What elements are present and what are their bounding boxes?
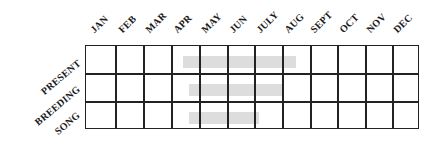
month-label: APR	[171, 12, 194, 35]
col-divider	[337, 46, 339, 128]
col-divider	[143, 46, 145, 128]
row-divider	[86, 73, 418, 75]
row-divider	[86, 101, 418, 103]
month-label: MAR	[143, 10, 168, 35]
col-divider	[115, 46, 117, 128]
col-divider	[199, 46, 201, 128]
month-label: OCT	[337, 11, 361, 35]
col-divider	[392, 46, 394, 128]
calendar-grid	[85, 45, 419, 129]
col-divider	[227, 46, 229, 128]
col-divider	[310, 46, 312, 128]
month-label: MAY	[199, 11, 223, 35]
col-divider	[171, 46, 173, 128]
bar-breeding	[189, 84, 282, 96]
month-label: AUG	[282, 11, 306, 35]
month-label: FEB	[116, 13, 138, 35]
month-label: SEPT	[308, 9, 334, 35]
month-label: JUN	[227, 13, 249, 35]
month-label: DEC	[391, 12, 414, 35]
month-label: JULY	[254, 9, 280, 35]
col-divider	[282, 46, 284, 128]
month-label: JAN	[88, 13, 110, 35]
row-label-song: SONG	[53, 109, 83, 136]
col-divider	[365, 46, 367, 128]
col-divider	[254, 46, 256, 128]
month-label: NOV	[364, 11, 388, 35]
